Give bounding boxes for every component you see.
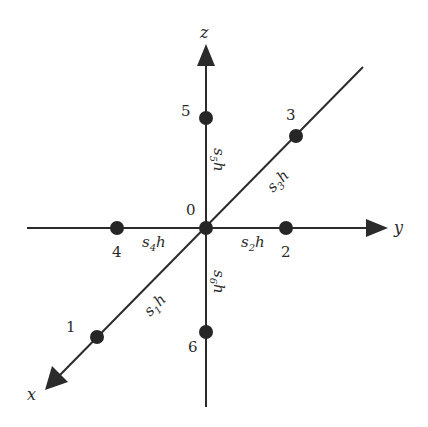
point-label-5: 5 (181, 102, 191, 120)
stencil-diagram: z y x 0 1 2 3 4 5 6 s4h (0, 0, 428, 427)
spacing-s3h: s3h (263, 166, 294, 197)
point-1 (90, 330, 104, 344)
point-0 (199, 221, 213, 235)
point-label-0: 0 (186, 201, 196, 219)
y-axis: y (27, 218, 404, 237)
z-axis: z (197, 23, 215, 407)
x-axis-label: x (27, 385, 36, 404)
spacing-s2h: s2h (241, 233, 265, 253)
spacing-s4h: s4h (142, 233, 166, 253)
point-3 (289, 129, 303, 143)
spacing-labels: s4h s2h s5h s6h s3h s1h (140, 148, 294, 321)
y-axis-label: y (393, 218, 404, 237)
z-arrowhead-icon (197, 44, 215, 66)
spacing-s1h: s1h (140, 290, 171, 321)
point-4 (110, 221, 124, 235)
point-2 (279, 221, 293, 235)
point-label-3: 3 (286, 106, 296, 124)
y-arrowhead-icon (366, 219, 388, 237)
spacing-s5h: s5h (208, 148, 228, 172)
point-label-4: 4 (112, 243, 122, 261)
point-label-2: 2 (281, 243, 291, 261)
point-6 (199, 325, 213, 339)
point-label-1: 1 (66, 318, 76, 336)
z-axis-label: z (199, 23, 209, 42)
point-5 (199, 111, 213, 125)
spacing-s6h: s6h (208, 270, 228, 294)
point-label-6: 6 (188, 338, 198, 356)
